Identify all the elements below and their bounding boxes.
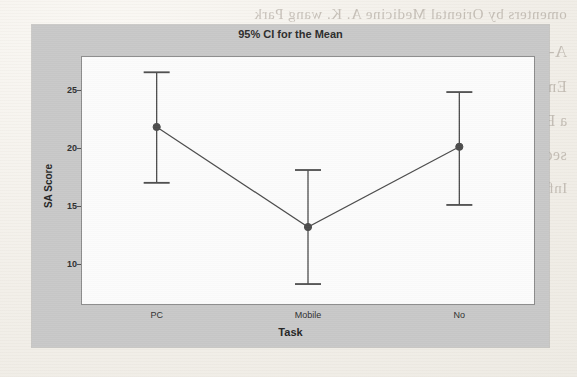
- x-axis-title: Task: [32, 326, 549, 338]
- x-axis-tick-label: No: [454, 310, 466, 320]
- x-axis-tick-label: Mobile: [295, 310, 322, 320]
- series-overlay: [32, 25, 549, 347]
- data-point-marker: [456, 143, 463, 150]
- x-axis-tick-label: PC: [150, 310, 163, 320]
- chart-panel: 95% CI for the Mean SA Score 10152025 PC…: [32, 25, 549, 347]
- bleed-through-line: omenters by Oriental Medicine A. K. wang…: [254, 6, 567, 23]
- data-point-marker: [153, 123, 160, 130]
- data-point-marker: [304, 223, 311, 230]
